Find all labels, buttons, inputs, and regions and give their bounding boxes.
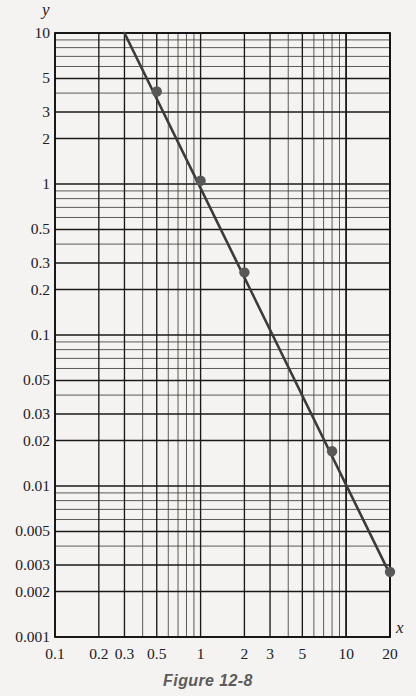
data-point-marker bbox=[239, 267, 249, 277]
data-point-marker bbox=[195, 176, 205, 186]
figure-caption: Figure 12-8 bbox=[0, 672, 416, 690]
y-tick-label: 2 bbox=[0, 130, 50, 148]
y-tick-label: 0.1 bbox=[0, 326, 50, 344]
y-tick-label: 10 bbox=[0, 24, 50, 42]
x-tick-label: 10 bbox=[338, 645, 354, 663]
y-axis-label: y bbox=[42, 0, 50, 20]
x-tick-label: 1 bbox=[197, 645, 205, 663]
data-point-marker bbox=[152, 86, 162, 96]
y-tick-label: 0.02 bbox=[0, 432, 50, 450]
x-axis-label: x bbox=[396, 618, 404, 638]
y-tick-label: 0.2 bbox=[0, 281, 50, 299]
x-tick-label: 2 bbox=[241, 645, 249, 663]
y-tick-label: 1 bbox=[0, 175, 50, 193]
x-tick-label: 0.3 bbox=[115, 645, 134, 663]
data-point-marker bbox=[385, 567, 395, 577]
x-tick-label: 20 bbox=[382, 645, 398, 663]
x-tick-label: 3 bbox=[266, 645, 274, 663]
y-tick-label: 0.01 bbox=[0, 477, 50, 495]
y-tick-label: 0.005 bbox=[0, 522, 50, 540]
y-tick-label: 0.5 bbox=[0, 220, 50, 238]
y-tick-label: 3 bbox=[0, 103, 50, 121]
figure-container: y x 1053210.50.30.20.10.050.030.020.010.… bbox=[0, 0, 416, 696]
y-tick-label: 0.05 bbox=[0, 371, 50, 389]
x-tick-label: 0.2 bbox=[89, 645, 108, 663]
y-tick-label: 0.3 bbox=[0, 254, 50, 272]
x-tick-label: 0.5 bbox=[147, 645, 166, 663]
x-tick-label: 0.1 bbox=[45, 645, 64, 663]
y-tick-label: 0.003 bbox=[0, 556, 50, 574]
y-tick-label: 0.03 bbox=[0, 405, 50, 423]
log-log-plot bbox=[0, 0, 416, 696]
y-tick-label: 0.002 bbox=[0, 583, 50, 601]
data-point-marker bbox=[327, 446, 337, 456]
x-tick-label: 5 bbox=[298, 645, 306, 663]
y-tick-label: 0.001 bbox=[0, 628, 50, 646]
y-tick-label: 5 bbox=[0, 69, 50, 87]
